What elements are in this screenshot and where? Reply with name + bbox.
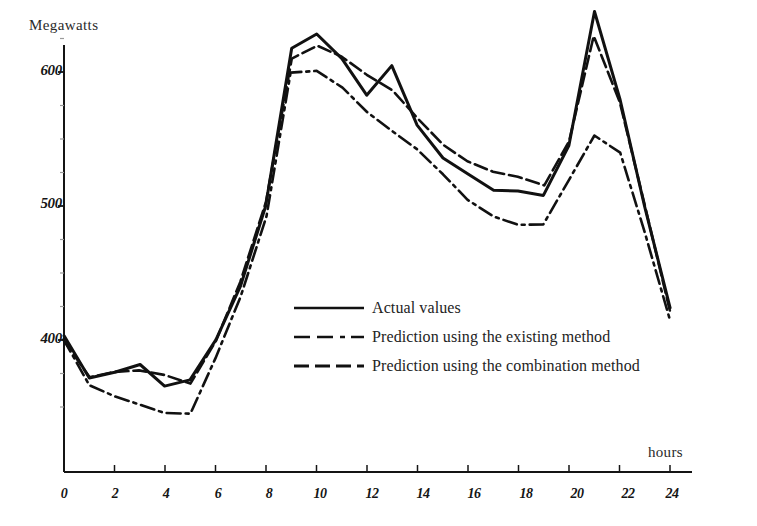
legend-item-actual: Actual values <box>292 293 712 322</box>
legend-swatch-dashed-icon <box>292 360 366 372</box>
legend-label-combination: Prediction using the combination method <box>372 357 640 375</box>
legend-item-existing: Prediction using the existing method <box>292 322 712 351</box>
axis-lines <box>64 45 692 472</box>
chart-figure: Megawatts hours 600 500 400 0 2 4 6 8 10… <box>0 0 757 526</box>
legend-item-combination: Prediction using the combination method <box>292 351 712 380</box>
legend-label-existing: Prediction using the existing method <box>372 328 610 346</box>
legend: Actual values Prediction using the exist… <box>292 293 712 380</box>
legend-label-actual: Actual values <box>372 299 461 317</box>
legend-swatch-solid-icon <box>292 302 366 314</box>
x-tick-marks <box>64 465 670 472</box>
plot-area <box>0 0 757 526</box>
legend-swatch-dash-dot-icon <box>292 331 366 343</box>
